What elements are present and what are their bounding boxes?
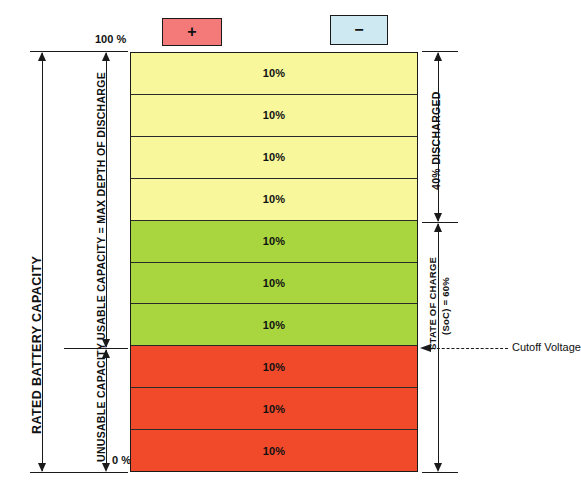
bracket-unusable-capacity-arrow-bottom: [102, 463, 110, 472]
segment-label: 10%: [263, 235, 286, 247]
segment-label: 10%: [263, 151, 286, 163]
label-state-of-charge-line1: STATE OF CHARGE: [428, 257, 439, 350]
label-unusable-capacity: UNUSABLE CAPACITY: [95, 343, 107, 462]
segment-label: 10%: [263, 277, 286, 289]
reference-line-right-bottom: [422, 472, 458, 473]
battery-segment: 10%: [131, 263, 417, 305]
bracket-discharged-arrow-top: [434, 52, 442, 61]
battery-segment: 10%: [131, 53, 417, 95]
battery-segment: 10%: [131, 304, 417, 346]
battery-segment: 10%: [131, 388, 417, 430]
bracket-rated-capacity-arrow-top: [38, 52, 46, 61]
segment-label: 10%: [263, 109, 286, 121]
segment-label: 10%: [263, 361, 286, 373]
label-state-of-charge-line2: (SoC) = 60%: [441, 277, 452, 335]
label-40-percent-discharged: 40% DISCHARGED: [430, 91, 442, 190]
reference-line-0-percent: [30, 472, 128, 473]
bracket-discharged-arrow-bottom: [434, 213, 442, 222]
cutoff-voltage-arrow-icon: [420, 344, 431, 352]
label-cutoff-voltage: Cutoff Voltage: [512, 341, 581, 353]
tick-label-100-percent: 100 %: [95, 33, 126, 45]
battery-segment: 10%: [131, 137, 417, 179]
battery-body: 10% 10% 10% 10% 10% 10% 10% 10% 10% 10%: [130, 52, 418, 472]
battery-negative-terminal: −: [330, 15, 388, 45]
segment-label: 10%: [263, 403, 286, 415]
battery-segment: 10%: [131, 179, 417, 221]
battery-segment: 10%: [131, 346, 417, 388]
cutoff-voltage-dashed-line: [432, 348, 508, 349]
positive-terminal-label: +: [187, 24, 196, 40]
negative-terminal-label: −: [354, 22, 363, 38]
bracket-state-of-charge-arrow-top: [434, 223, 442, 232]
bracket-usable-capacity-arrow-top: [102, 52, 110, 61]
segment-label: 10%: [263, 445, 286, 457]
battery-positive-terminal: +: [162, 18, 222, 46]
battery-segment: 10%: [131, 95, 417, 137]
label-usable-capacity: USABLE CAPACITY = MAX DEPTH OF DISCHARGE: [95, 72, 107, 340]
bracket-state-of-charge-arrow-bottom: [434, 463, 442, 472]
segment-label: 10%: [263, 319, 286, 331]
battery-segment: 10%: [131, 221, 417, 263]
battery-segment: 10%: [131, 430, 417, 471]
tick-label-0-percent: 0 %: [112, 454, 131, 466]
label-rated-battery-capacity: RATED BATTERY CAPACITY: [30, 256, 44, 434]
bracket-rated-capacity-arrow-bottom: [38, 463, 46, 472]
segment-label: 10%: [263, 193, 286, 205]
segment-label: 10%: [263, 67, 286, 79]
